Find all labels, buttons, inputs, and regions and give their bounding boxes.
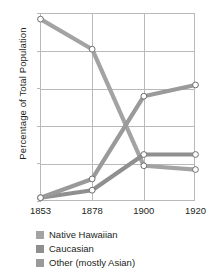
x-tick-label: 1920 (176, 205, 210, 216)
legend-item: Other (mostly Asian) (36, 256, 206, 269)
chart-figure: Percentage of Total Population 020406080… (0, 0, 209, 272)
series-line (41, 19, 196, 169)
data-point-marker (38, 16, 44, 22)
data-point-marker (38, 195, 44, 201)
data-point-marker (89, 46, 95, 52)
x-tick-label: 1900 (124, 205, 164, 216)
legend-swatch-icon (36, 259, 44, 267)
legend-swatch-icon (36, 245, 44, 253)
data-point-marker (141, 93, 147, 99)
legend-label: Other (mostly Asian) (49, 258, 135, 268)
legend-label: Native Hawaiian (49, 230, 118, 240)
x-tick-label: 1853 (21, 205, 61, 216)
legend-swatch-icon (36, 231, 44, 239)
x-tick-label: 1878 (72, 205, 112, 216)
x-axis-tick-labels: 1853187819001920 (0, 205, 209, 219)
data-point-marker (89, 176, 95, 182)
data-point-marker (141, 152, 147, 158)
legend-label: Caucasian (49, 244, 94, 254)
legend-item: Native Hawaiian (36, 228, 206, 241)
data-point-marker (193, 152, 199, 158)
data-point-marker (193, 167, 199, 173)
data-point-marker (89, 187, 95, 193)
chart-legend: Native HawaiianCaucasianOther (mostly As… (36, 228, 206, 270)
data-point-marker (193, 82, 199, 88)
legend-item: Caucasian (36, 242, 206, 255)
data-point-marker (141, 163, 147, 169)
series-line (41, 85, 196, 198)
